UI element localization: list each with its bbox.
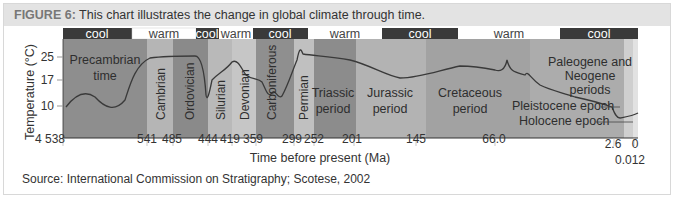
- svg-text:359: 359: [243, 132, 263, 146]
- figure-source: Source: International Commission on Stra…: [22, 172, 370, 186]
- svg-text:Permian: Permian: [297, 75, 311, 120]
- svg-text:Pleistocene epoch: Pleistocene epoch: [512, 99, 614, 113]
- svg-text:cool: cool: [86, 27, 109, 41]
- svg-text:541: 541: [137, 132, 157, 146]
- svg-text:warm: warm: [493, 27, 525, 41]
- svg-text:0.012: 0.012: [615, 153, 645, 167]
- svg-text:Holocene epoch: Holocene epoch: [519, 114, 609, 128]
- svg-text:252: 252: [304, 132, 324, 146]
- svg-text:Paleogene and: Paleogene and: [548, 55, 632, 69]
- svg-text:0: 0: [632, 137, 639, 151]
- svg-text:Cambrian: Cambrian: [154, 68, 168, 120]
- svg-text:Carboniferous: Carboniferous: [265, 45, 279, 120]
- svg-text:Triassic: Triassic: [312, 86, 355, 100]
- svg-text:warm: warm: [220, 27, 252, 41]
- svg-text:cool: cool: [269, 27, 292, 41]
- svg-text:warm: warm: [148, 27, 180, 41]
- svg-text:Silurian: Silurian: [214, 80, 228, 120]
- svg-text:419: 419: [220, 132, 240, 146]
- svg-text:66.0: 66.0: [482, 132, 506, 146]
- svg-text:period: period: [373, 102, 408, 116]
- svg-text:period: period: [453, 102, 488, 116]
- svg-text:Jurassic: Jurassic: [367, 86, 413, 100]
- svg-text:444: 444: [198, 132, 218, 146]
- svg-text:17: 17: [41, 73, 55, 87]
- svg-text:145: 145: [406, 132, 426, 146]
- svg-text:Precambrian: Precambrian: [70, 53, 141, 67]
- y-axis: 25 17 10 Temperature (°C): [23, 44, 63, 140]
- svg-text:2.6: 2.6: [605, 137, 622, 151]
- svg-text:201: 201: [342, 132, 362, 146]
- svg-text:cool: cool: [409, 27, 432, 41]
- svg-text:4 538: 4 538: [35, 132, 65, 146]
- svg-text:299: 299: [282, 132, 302, 146]
- y-axis-label: Temperature (°C): [23, 44, 37, 140]
- svg-text:warm: warm: [329, 27, 361, 41]
- climate-chart: cool warm cool warm cool warm cool warm …: [0, 0, 673, 201]
- svg-text:cool: cool: [588, 27, 611, 41]
- svg-text:Ordovician: Ordovician: [183, 63, 197, 120]
- svg-text:cool: cool: [196, 27, 219, 41]
- svg-text:10: 10: [41, 99, 55, 113]
- x-axis-label: Time before present (Ma): [250, 151, 391, 165]
- svg-text:Devonian: Devonian: [238, 69, 252, 120]
- climate-bands: cool warm cool warm cool warm cool warm …: [63, 27, 638, 41]
- svg-text:time: time: [93, 69, 117, 83]
- svg-text:Cretaceous: Cretaceous: [438, 86, 502, 100]
- svg-text:25: 25: [41, 50, 55, 64]
- svg-text:periods: periods: [570, 83, 611, 97]
- svg-text:Neogene: Neogene: [565, 69, 616, 83]
- svg-text:485: 485: [162, 132, 182, 146]
- svg-text:period: period: [316, 102, 351, 116]
